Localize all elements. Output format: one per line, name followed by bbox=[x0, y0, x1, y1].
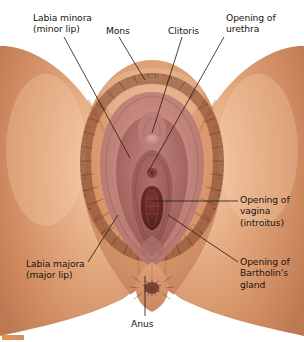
left-thigh-highlight bbox=[6, 74, 86, 226]
label-line: Bartholin's bbox=[240, 267, 290, 278]
label-line: (major lip) bbox=[26, 269, 85, 280]
label-opening-of-bartholins-gland: Opening of Bartholin's gland bbox=[240, 256, 290, 290]
label-line: vagina bbox=[240, 205, 290, 216]
glans-highlight bbox=[148, 135, 155, 140]
label-clitoris: Clitoris bbox=[168, 25, 199, 36]
label-line: (minor lip) bbox=[33, 23, 92, 34]
corner-color-mark bbox=[2, 335, 24, 340]
label-opening-of-urethra: Opening of urethra bbox=[226, 12, 276, 35]
label-line: (introitus) bbox=[240, 217, 290, 228]
label-mons: Mons bbox=[106, 25, 130, 36]
label-line: Labia minora bbox=[33, 12, 92, 23]
label-labia-minora: Labia minora (minor lip) bbox=[33, 12, 92, 35]
label-opening-of-vagina: Opening of vagina (introitus) bbox=[240, 194, 290, 228]
label-line: Opening of bbox=[226, 12, 276, 23]
label-line: Opening of bbox=[240, 256, 290, 267]
label-line: gland bbox=[240, 279, 290, 290]
label-line: Labia majora bbox=[26, 258, 85, 269]
label-line: Opening of bbox=[240, 194, 290, 205]
urethral-meatus bbox=[150, 171, 154, 175]
label-line: Mons bbox=[106, 25, 130, 36]
label-anus: Anus bbox=[131, 318, 153, 329]
label-labia-majora: Labia majora (major lip) bbox=[26, 258, 85, 281]
anatomy-figure: Labia minora (minor lip) Mons Clitoris O… bbox=[0, 0, 304, 342]
label-line: urethra bbox=[226, 23, 276, 34]
label-line: Anus bbox=[131, 318, 153, 329]
label-line: Clitoris bbox=[168, 25, 199, 36]
vulva-illustration bbox=[0, 0, 304, 342]
